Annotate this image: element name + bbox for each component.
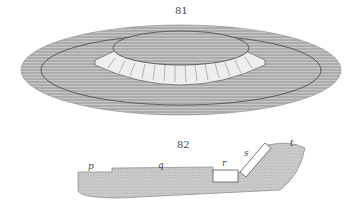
terrain-section bbox=[78, 143, 305, 198]
label-s: s bbox=[244, 148, 249, 158]
label-p: p bbox=[88, 161, 94, 171]
figure-81-number: 81 bbox=[175, 5, 188, 16]
illustration-canvas bbox=[0, 0, 361, 210]
crater-floor bbox=[113, 31, 249, 65]
label-r: r bbox=[222, 158, 226, 168]
label-t: t bbox=[290, 138, 294, 148]
figure-82 bbox=[78, 143, 305, 198]
label-q: q bbox=[158, 160, 164, 170]
figure-81 bbox=[21, 25, 341, 115]
figure-82-number: 82 bbox=[177, 139, 190, 150]
block-r bbox=[213, 170, 238, 182]
